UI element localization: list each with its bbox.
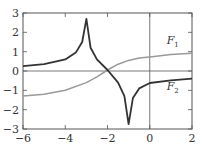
y-tick-label: −3: [3, 123, 19, 136]
line-chart: −6−4−2023210−1−2−3F1F2: [0, 0, 201, 150]
y-tick-label: −1: [3, 84, 19, 97]
x-tick-label: 0: [146, 132, 153, 145]
y-tick-label: 1: [12, 46, 19, 59]
x-tick-label: 2: [189, 132, 196, 145]
y-tick-label: −2: [3, 104, 19, 117]
x-tick-label: −4: [57, 132, 73, 145]
series-label: F2: [166, 80, 179, 95]
y-tick-label: 3: [12, 7, 19, 20]
y-tick-label: 0: [12, 65, 19, 78]
series-label: F1: [166, 34, 179, 49]
y-tick-label: 2: [12, 26, 19, 39]
x-tick-label: −2: [99, 132, 115, 145]
